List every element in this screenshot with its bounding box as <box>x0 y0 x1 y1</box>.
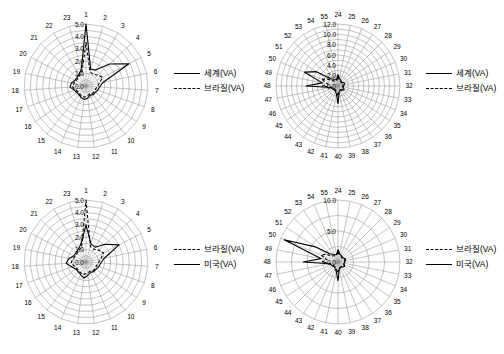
svg-text:43: 43 <box>295 141 303 148</box>
svg-text:0.0: 0.0 <box>75 83 84 90</box>
legend-item: 브라질(VA) <box>426 83 496 94</box>
radar-chart-bottom-left: 0.01.02.03.04.05.01234567891011121314151… <box>0 178 180 350</box>
panel-top-left: 0.01.02.03.04.05.01234567891011121314151… <box>0 2 250 177</box>
legend-item: 미국(VA) <box>426 259 496 270</box>
svg-text:13: 13 <box>73 153 81 160</box>
svg-text:21: 21 <box>30 34 38 41</box>
svg-text:8.0: 8.0 <box>327 41 336 48</box>
svg-text:23: 23 <box>63 190 71 197</box>
svg-text:40: 40 <box>334 153 342 160</box>
svg-text:38: 38 <box>362 148 370 155</box>
radar-chart-top-right: 0.02.04.06.08.010.012.024252627282930313… <box>252 2 432 174</box>
legend-label: 세계(VA) <box>456 68 488 79</box>
svg-text:48: 48 <box>263 258 271 265</box>
panel-bottom-right: 0.05.010.0242526272829303132333435363738… <box>252 178 504 353</box>
svg-text:27: 27 <box>374 199 382 206</box>
svg-text:17: 17 <box>15 282 23 289</box>
svg-text:3.0: 3.0 <box>75 221 84 228</box>
legend-top-right: 세계(VA) 브라질(VA) <box>426 68 496 98</box>
svg-text:33: 33 <box>404 96 412 103</box>
svg-text:18: 18 <box>12 87 20 94</box>
radar-chart-bottom-right: 0.05.010.0242526272829303132333435363738… <box>252 178 432 350</box>
svg-text:15: 15 <box>38 137 46 144</box>
legend-label: 세계(VA) <box>204 68 236 79</box>
svg-text:23: 23 <box>63 14 71 21</box>
legend-label: 브라질(VA) <box>204 244 244 255</box>
legend-key-solid-icon <box>174 73 200 75</box>
radar-chart-top-left: 0.01.02.03.04.05.01234567891011121314151… <box>0 2 180 174</box>
legend-item: 세계(VA) <box>174 68 244 79</box>
svg-text:39: 39 <box>348 328 356 335</box>
panel-top-right: 0.02.04.06.08.010.012.024252627282930313… <box>252 2 504 177</box>
svg-text:52: 52 <box>284 208 292 215</box>
svg-text:47: 47 <box>265 96 273 103</box>
svg-text:2: 2 <box>103 190 107 197</box>
svg-text:42: 42 <box>307 148 315 155</box>
svg-text:1: 1 <box>84 11 88 18</box>
svg-text:6.0: 6.0 <box>327 52 336 59</box>
svg-text:51: 51 <box>275 43 283 50</box>
svg-text:18: 18 <box>12 263 20 270</box>
svg-text:12: 12 <box>92 329 100 336</box>
legend-label: 미국(VA) <box>456 259 488 270</box>
svg-text:12.0: 12.0 <box>323 21 336 28</box>
svg-text:10.0: 10.0 <box>323 31 336 38</box>
svg-text:1: 1 <box>84 187 88 194</box>
svg-text:54: 54 <box>307 193 315 200</box>
svg-text:30: 30 <box>400 55 408 62</box>
legend-top-left: 세계(VA) 브라질(VA) <box>174 68 244 98</box>
svg-text:4: 4 <box>136 34 140 41</box>
legend-key-solid-icon <box>174 264 200 266</box>
svg-text:30: 30 <box>400 231 408 238</box>
svg-text:8: 8 <box>151 106 155 113</box>
legend-bottom-left: 브라질(VA) 미국(VA) <box>174 244 244 274</box>
legend-key-dashed-icon <box>426 249 452 251</box>
svg-text:34: 34 <box>400 286 408 293</box>
legend-key-solid-icon <box>426 264 452 266</box>
svg-text:41: 41 <box>321 152 329 159</box>
svg-text:53: 53 <box>295 23 303 30</box>
svg-text:48: 48 <box>263 82 271 89</box>
svg-text:46: 46 <box>269 286 277 293</box>
svg-text:28: 28 <box>385 32 393 39</box>
svg-text:14: 14 <box>54 324 62 331</box>
svg-text:26: 26 <box>362 193 370 200</box>
svg-text:5: 5 <box>147 50 151 57</box>
svg-text:22: 22 <box>45 198 53 205</box>
svg-text:14: 14 <box>54 148 62 155</box>
svg-text:37: 37 <box>374 317 382 324</box>
svg-text:24: 24 <box>334 11 342 18</box>
legend-key-dashed-icon <box>174 88 200 90</box>
svg-text:50: 50 <box>269 231 277 238</box>
svg-text:32: 32 <box>405 258 413 265</box>
svg-text:3: 3 <box>121 198 125 205</box>
legend-label: 브라질(VA) <box>456 83 496 94</box>
svg-text:29: 29 <box>393 219 401 226</box>
svg-text:10.0: 10.0 <box>323 197 336 204</box>
svg-text:29: 29 <box>393 43 401 50</box>
legend-key-dashed-icon <box>174 249 200 251</box>
svg-text:5: 5 <box>147 226 151 233</box>
svg-text:31: 31 <box>404 69 412 76</box>
svg-text:11: 11 <box>111 324 118 331</box>
svg-text:45: 45 <box>275 122 283 129</box>
svg-text:44: 44 <box>284 309 292 316</box>
svg-text:19: 19 <box>13 244 21 251</box>
svg-text:55: 55 <box>321 13 329 20</box>
svg-text:9: 9 <box>142 299 146 306</box>
figure-root: 0.01.02.03.04.05.01234567891011121314151… <box>0 0 504 354</box>
svg-text:51: 51 <box>275 219 283 226</box>
svg-text:38: 38 <box>362 324 370 331</box>
svg-text:46: 46 <box>269 110 277 117</box>
svg-text:10: 10 <box>127 313 135 320</box>
svg-text:9: 9 <box>142 123 146 130</box>
svg-text:22: 22 <box>45 22 53 29</box>
svg-text:0.0: 0.0 <box>327 259 336 266</box>
svg-text:43: 43 <box>295 317 303 324</box>
svg-text:44: 44 <box>284 133 292 140</box>
svg-text:16: 16 <box>24 123 32 130</box>
svg-text:35: 35 <box>393 298 401 305</box>
svg-text:7: 7 <box>155 87 159 94</box>
svg-text:31: 31 <box>404 245 412 252</box>
svg-text:6: 6 <box>154 244 158 251</box>
